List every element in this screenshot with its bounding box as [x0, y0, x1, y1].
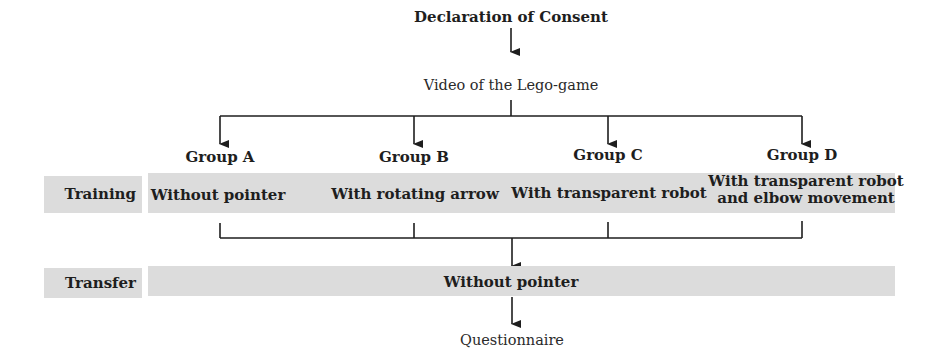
consent-node: Declaration of Consent	[414, 10, 608, 25]
group-a-label: Group A	[186, 150, 255, 165]
group-d-training-condition: With transparent robot and elbow movemen…	[708, 173, 903, 208]
transfer-condition: Without pointer	[444, 274, 579, 291]
group-d-label: Group D	[767, 148, 837, 163]
group-b-training-condition: With rotating arrow	[331, 186, 499, 203]
group-c-label: Group C	[573, 148, 642, 163]
questionnaire-node: Questionnaire	[460, 333, 564, 348]
training-phase-box: Training	[44, 176, 142, 213]
group-d-condition-line2: and elbow movement	[708, 190, 903, 207]
group-a-training-condition: Without pointer	[151, 187, 286, 204]
training-phase-label: Training	[65, 187, 136, 202]
video-node: Video of the Lego-game	[424, 78, 599, 93]
group-c-training-condition: With transparent robot	[511, 185, 706, 202]
group-b-label: Group B	[379, 150, 449, 165]
group-d-condition-line1: With transparent robot	[708, 173, 903, 190]
transfer-phase-box: Transfer	[44, 268, 142, 298]
transfer-phase-label: Transfer	[65, 276, 136, 291]
